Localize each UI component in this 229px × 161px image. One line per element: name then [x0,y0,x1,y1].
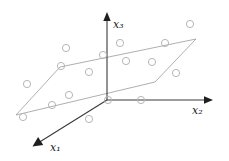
data-point [186,20,193,27]
axis-label-x1: x₁ [50,142,61,153]
regression-plane [16,39,196,115]
x2-axis [107,96,213,103]
figure-container: x₁ x₂ x₃ [0,0,229,161]
data-point [122,57,129,64]
data-point [85,115,92,122]
data-point [48,101,55,108]
axis-label-x3: x₃ [113,19,124,30]
data-point [19,113,26,120]
data-point [23,80,30,87]
axis-label-x2: x₂ [192,105,203,116]
data-point [116,39,123,46]
x1-axis [33,100,108,147]
data-point [85,68,92,75]
data-point [172,69,179,76]
x3-axis [103,12,110,100]
data-point [62,44,69,51]
data-point [65,91,72,98]
data-point [148,58,155,65]
data-point [99,51,106,58]
